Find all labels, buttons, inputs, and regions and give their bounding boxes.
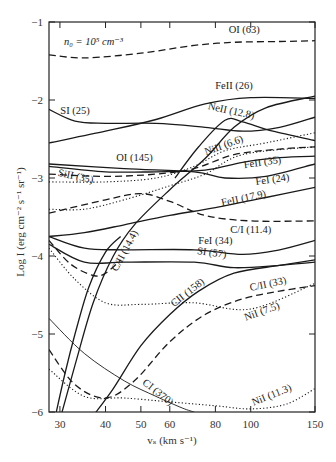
series-label: NiI (11.3) xyxy=(250,382,294,409)
x-tick-label: 30 xyxy=(54,418,66,430)
series-label: SI (57) xyxy=(196,245,227,261)
x-tick-label: 50 xyxy=(135,418,147,430)
x-tick-label: 60 xyxy=(164,418,176,430)
series-label: OI (63) xyxy=(229,24,261,36)
series-label: FeII (35) xyxy=(243,154,282,171)
x-tick-label: 80 xyxy=(210,418,222,430)
series-curve xyxy=(60,96,315,420)
y-tick-label: −2 xyxy=(31,94,43,106)
line-chart: 3040506080100150−1−2−3−4−5−6 OI (63)FeII… xyxy=(0,0,336,462)
x-tick-label: 40 xyxy=(100,418,112,430)
series-curve xyxy=(49,194,315,222)
series-label: NiI (7.5) xyxy=(243,300,282,324)
x-tick-label: 100 xyxy=(242,418,259,430)
series-label: CI (370) xyxy=(140,377,176,409)
series-label: OI (145) xyxy=(116,152,153,164)
series-label: SI (25) xyxy=(60,105,90,117)
series-label: C/II (14.4) xyxy=(109,228,141,274)
y-tick-label: −5 xyxy=(31,328,43,340)
series-label: FeI (24) xyxy=(255,171,291,188)
axis-ticks: 3040506080100150−1−2−3−4−5−6 xyxy=(31,16,323,430)
y-axis-title: Log I (erg cm⁻² s⁻¹ sr⁻¹) xyxy=(14,167,27,277)
series-label: C/I (11.4) xyxy=(230,224,272,236)
y-tick-label: −6 xyxy=(31,406,43,418)
plot-frame xyxy=(49,22,315,412)
density-annotation: n₀ = 10⁵ cm⁻³ xyxy=(64,36,124,47)
y-tick-label: −3 xyxy=(31,172,43,184)
x-tick-label: 150 xyxy=(307,418,324,430)
series-labels: OI (63)FeII (26)SI (25)NeII (12.8)NiII (… xyxy=(57,24,294,409)
series-curve xyxy=(49,187,315,236)
y-tick-label: −4 xyxy=(31,250,43,262)
x-axis-title: vₛ (km s⁻¹) xyxy=(147,434,197,447)
series-curve xyxy=(49,237,315,255)
series-label: FeI (34) xyxy=(198,235,233,247)
series-label: FeII (26) xyxy=(215,80,253,92)
series-label: FeII (17.9) xyxy=(220,188,267,209)
data-series xyxy=(49,41,315,420)
series-label: CII (158) xyxy=(169,275,208,309)
y-tick-label: −1 xyxy=(31,16,43,28)
series-curve xyxy=(49,244,315,267)
